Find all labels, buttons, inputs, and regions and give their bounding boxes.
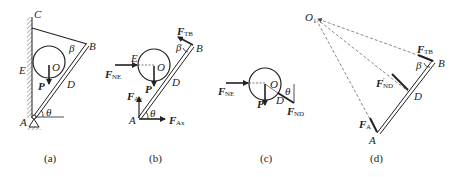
label-o: O — [270, 78, 278, 90]
label-beta: β — [175, 41, 182, 53]
label-p: P — [38, 80, 45, 92]
label-o: O — [52, 61, 60, 73]
label-fay: F Ay — [126, 90, 142, 103]
rod-ab-edge1 — [377, 61, 432, 133]
label-d: D — [413, 90, 422, 102]
dashed-line-a-o1 — [317, 21, 377, 132]
label-a: A — [368, 134, 376, 146]
svg-text:1: 1 — [313, 17, 317, 25]
label-ftb: F TB — [416, 43, 433, 56]
label-fnd-prime: F ′ ND — [375, 76, 393, 90]
svg-text:ND: ND — [294, 110, 304, 118]
label-ftb: F TB — [176, 25, 193, 38]
svg-text:O: O — [305, 11, 313, 23]
svg-text:NE: NE — [225, 90, 234, 98]
label-theta: θ — [285, 85, 291, 97]
label-fne: F NE — [104, 68, 121, 81]
label-fax: F Ax — [168, 114, 185, 127]
label-c: C — [34, 8, 42, 20]
svg-text:A: A — [366, 123, 371, 131]
caption-b: (b) — [149, 152, 162, 165]
svg-text:Ay: Ay — [134, 95, 142, 103]
svg-text:NE: NE — [112, 73, 121, 81]
label-b: B — [438, 57, 445, 69]
label-p: P — [257, 98, 264, 110]
label-fnd: F ND — [286, 105, 304, 118]
label-b: B — [89, 40, 96, 52]
caption-d: (d) — [370, 152, 383, 165]
theta-arc — [146, 112, 148, 119]
rope-cb — [32, 28, 87, 44]
label-d: D — [275, 94, 284, 106]
wall-hatching — [27, 17, 32, 118]
force-arrow-fnd-prime — [392, 74, 408, 90]
label-beta: β — [415, 59, 422, 71]
pin-support — [29, 119, 39, 127]
label-a: A — [19, 116, 27, 128]
svg-text:ND: ND — [383, 82, 393, 90]
label-theta: θ — [150, 107, 156, 119]
rod-ab-edge2 — [380, 63, 435, 134]
svg-text:Ax: Ax — [176, 119, 185, 127]
label-o1: O 1 — [305, 11, 317, 25]
caption-c: (c) — [260, 152, 273, 165]
ground-hatching — [27, 127, 41, 130]
caption-a: (a) — [44, 152, 57, 165]
label-o: O — [157, 61, 165, 73]
panel-a: C B β E O P D θ A (a) — [18, 8, 96, 165]
svg-text:TB: TB — [184, 30, 193, 38]
panel-d: O 1 F TB β B F ′ ND D F A A (d) — [305, 11, 445, 165]
label-beta: β — [68, 42, 75, 54]
panel-b: F TB β B E O F NE P D F Ay θ A F Ax (b) — [104, 25, 203, 165]
label-b: B — [196, 42, 203, 54]
label-e: E — [18, 64, 26, 76]
dashed-line-d-o1 — [318, 20, 409, 92]
label-fne: F NE — [217, 85, 234, 98]
label-d: D — [171, 76, 180, 88]
panel-c: O θ F NE P D F ND (c) — [217, 68, 304, 165]
label-d: D — [66, 78, 75, 90]
statics-diagram: C B β E O P D θ A (a) F TB β B E O F NE — [0, 0, 457, 177]
label-e: E — [130, 52, 138, 64]
svg-text:TB: TB — [424, 48, 433, 56]
label-a: A — [128, 114, 136, 126]
rod-ab-edge1 — [138, 45, 191, 118]
label-theta: θ — [46, 106, 52, 118]
label-fa: F A — [358, 118, 371, 131]
label-p: P — [145, 83, 152, 95]
